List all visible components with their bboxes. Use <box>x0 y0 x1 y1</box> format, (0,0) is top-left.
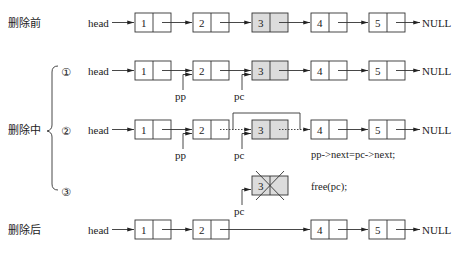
head-label: head <box>88 224 109 236</box>
code-free: free(pc); <box>311 181 347 193</box>
pointer-pp-arrow <box>183 134 192 150</box>
node-value: 3 <box>258 124 264 136</box>
node-value: 4 <box>317 224 323 236</box>
node-value: 2 <box>199 65 205 77</box>
step-number-2: ② <box>61 125 71 138</box>
null-label: NULL <box>422 65 452 77</box>
node-value: 5 <box>375 65 381 77</box>
null-label: NULL <box>422 124 452 136</box>
row-step3: 3pc <box>234 171 288 217</box>
linked-list-deletion-diagram: 删除前 删除中 删除后 ① ② ③ head12345NULLhead12345… <box>0 0 467 258</box>
node-value: 5 <box>375 224 381 236</box>
node-value: 3 <box>258 17 264 29</box>
node-value: 1 <box>141 124 147 136</box>
node-value: 4 <box>317 65 323 77</box>
pointer-pc-arrow <box>242 134 251 150</box>
pointer-pc-label: pc <box>234 205 245 217</box>
node-value: 2 <box>199 124 205 136</box>
row-step2: head12345NULLpppc <box>88 113 452 161</box>
head-label: head <box>88 124 109 136</box>
node-value: 3 <box>258 65 264 77</box>
pointer-pp-label: pp <box>175 90 187 102</box>
step-number-1: ① <box>61 66 71 79</box>
node-value: 1 <box>141 65 147 77</box>
node-value: 4 <box>317 124 323 136</box>
code-relink: pp->next=pc->next; <box>311 149 395 160</box>
node-value: 1 <box>141 224 147 236</box>
node-value: 2 <box>199 17 205 29</box>
node-value: 5 <box>375 17 381 29</box>
node-value: 5 <box>375 124 381 136</box>
node-value: 3 <box>258 180 264 192</box>
pointer-pp-arrow <box>183 75 192 91</box>
null-label: NULL <box>422 17 452 29</box>
head-label: head <box>88 65 109 77</box>
node-value: 4 <box>317 17 323 29</box>
pointer-pp-label: pp <box>175 149 187 161</box>
null-label: NULL <box>422 224 452 236</box>
step-number-3: ③ <box>61 186 71 199</box>
node-value: 1 <box>141 17 147 29</box>
label-during: 删除中 <box>8 123 41 137</box>
pointer-pc-label: pc <box>234 149 245 161</box>
row-before: head12345NULL <box>88 13 452 32</box>
node-value: 2 <box>199 224 205 236</box>
label-before: 删除前 <box>8 16 41 30</box>
row-after: head1245NULL <box>88 220 452 239</box>
pointer-pc-arrow <box>242 75 251 91</box>
row-step1: head12345NULLpppc <box>88 61 452 102</box>
head-label: head <box>88 17 109 29</box>
pointer-pc-arrow <box>242 190 251 206</box>
pointer-pc-label: pc <box>234 90 245 102</box>
label-after: 删除后 <box>8 223 41 237</box>
group-brace <box>47 66 58 190</box>
rows-layer: head12345NULLhead12345NULLpppchead12345N… <box>88 13 452 239</box>
